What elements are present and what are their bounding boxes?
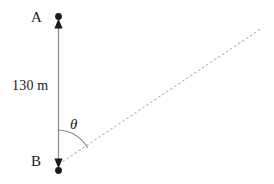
arrowhead-up-a	[54, 19, 62, 29]
arrowhead-down-b	[54, 159, 62, 169]
figure-container: A B 130 m θ	[0, 0, 274, 184]
point-label-b: B	[31, 154, 41, 169]
dotted-sight-line	[59, 28, 262, 164]
point-label-a: A	[31, 10, 42, 25]
angle-arc	[59, 130, 88, 148]
point-marker-b	[55, 167, 62, 174]
point-marker-a	[55, 13, 62, 20]
distance-label: 130 m	[12, 79, 48, 93]
angle-label-theta: θ	[70, 117, 77, 132]
